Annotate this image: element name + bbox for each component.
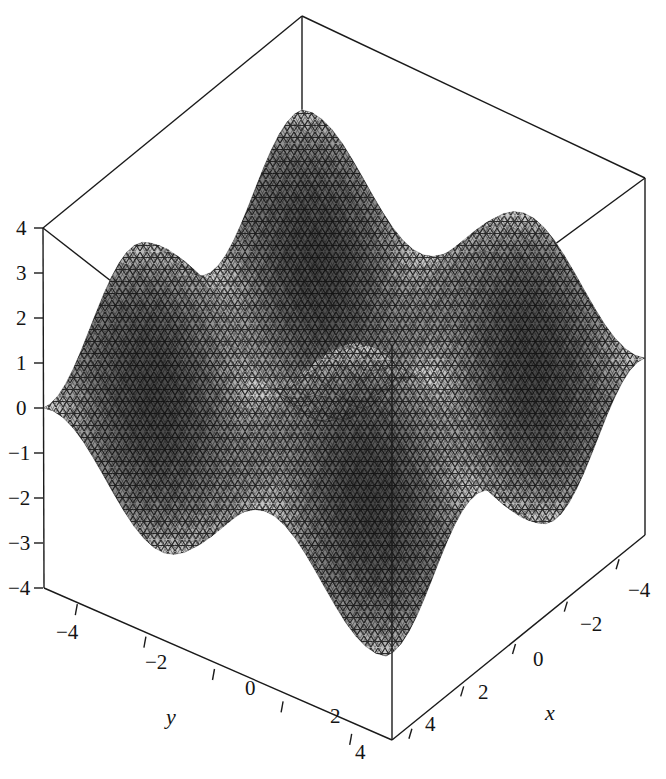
surface-mesh [0,0,666,779]
z-tick-label-2: 2 [16,306,27,331]
x-tick-0 [409,729,412,739]
surface-plot-figure: 43210−1−2−3−4 −4−2024 420−2−4 y x [0,0,666,779]
x-tick-label-4: −4 [628,578,650,603]
y-tick-0 [75,604,77,615]
x-tick-4 [616,559,619,569]
z-tick-label-3: 1 [16,351,27,376]
x-tick-label-2: 0 [533,647,544,672]
z-tick-label-0: 4 [16,216,27,241]
z-tick-label-5: −1 [8,441,30,466]
y-tick-4 [350,734,352,745]
z-axis-ticks [34,228,43,588]
z-tick-label-6: −2 [8,486,30,511]
x-tick-2 [513,644,516,654]
x-tick-label-1: 2 [478,680,489,705]
x-axis-ticks [409,559,619,739]
y-tick-3 [281,701,283,712]
y-tick-label-0: −4 [56,620,78,645]
y-axis-title: y [166,704,176,730]
x-tick-3 [564,602,567,612]
plot-canvas [0,0,666,779]
z-tick-label-8: −4 [8,576,30,601]
x-axis-title: x [545,700,555,726]
y-tick-label-2: 0 [245,676,256,701]
y-tick-2 [213,669,215,680]
x-tick-label-0: 4 [425,712,436,737]
x-tick-1 [461,686,464,696]
z-tick-label-7: −3 [8,531,30,556]
z-tick-label-1: 3 [16,261,27,286]
y-tick-label-1: −2 [145,650,167,675]
y-tick-1 [144,637,146,648]
surface-mesh-texture-fine [0,0,666,779]
x-tick-label-3: −2 [580,612,602,637]
z-tick-label-4: 0 [16,396,27,421]
y-axis-ticks [75,604,351,745]
y-tick-label-4: 4 [355,740,366,765]
y-tick-label-3: 2 [330,704,341,729]
